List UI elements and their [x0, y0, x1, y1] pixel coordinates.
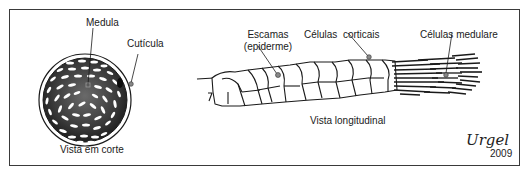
label-escamas: Escamas (epiderme) — [238, 29, 298, 52]
medullary-fibers — [448, 54, 482, 94]
cross-section-illustration — [39, 28, 138, 146]
caption-longitudinal: Vista longitudinal — [310, 115, 385, 127]
signature-name: Urgel — [466, 131, 509, 149]
medulares-marker — [444, 73, 449, 78]
label-escamas-line2: (epiderme) — [238, 41, 298, 53]
label-celulas-medulares: Células medulare — [420, 29, 498, 41]
cortical-fibers — [392, 58, 462, 95]
dark-spot — [117, 78, 123, 88]
label-medula: Medula — [86, 17, 119, 29]
cuticula-marker — [129, 82, 134, 87]
caption-cross-section: Vista em corte — [60, 144, 124, 156]
escamas-marker — [276, 73, 281, 78]
corticais-marker — [367, 55, 372, 60]
signature-year: 2009 — [490, 148, 512, 159]
label-cuticula: Cutícula — [127, 38, 164, 50]
label-celulas-corticais: Células corticais — [304, 29, 380, 41]
cuticula-pointer — [131, 54, 138, 83]
label-escamas-line1: Escamas — [238, 29, 298, 41]
